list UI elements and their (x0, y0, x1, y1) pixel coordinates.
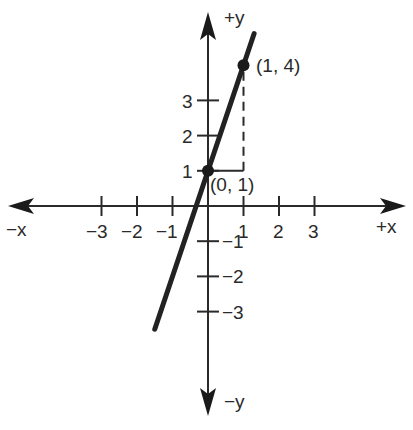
axis-label-y-positive: +y (224, 8, 245, 27)
point-label-0-1: (0, 1) (210, 175, 254, 194)
axis-label-x-positive: +x (376, 217, 397, 236)
x-tick-label: 3 (308, 222, 319, 241)
y-tick-label: −1 (222, 232, 244, 251)
point-label-1-4: (1, 4) (256, 56, 300, 75)
y-tick-label: −2 (222, 267, 244, 286)
y-tick-label: −3 (222, 303, 244, 322)
data-point (238, 59, 250, 71)
y-tick-label: 2 (182, 127, 193, 146)
x-tick-label: −2 (121, 222, 143, 241)
axis-label-x-negative: −x (6, 220, 27, 239)
y-tick-label: 1 (182, 162, 193, 181)
coordinate-graph (0, 0, 413, 430)
y-tick-label: 3 (182, 92, 193, 111)
x-tick-label: 2 (273, 222, 284, 241)
x-tick-label: −3 (86, 222, 108, 241)
axis-label-y-negative: −y (224, 392, 245, 411)
x-tick-label: −1 (156, 222, 178, 241)
axes (8, 12, 406, 416)
